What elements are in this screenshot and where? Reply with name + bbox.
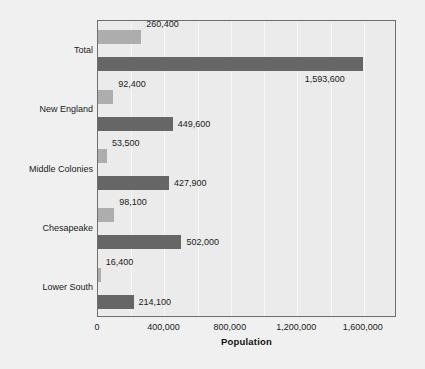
- bar-new-england-1760[interactable]: [98, 117, 173, 131]
- bar-lower-south-1760[interactable]: [98, 295, 134, 309]
- category-label-total: Total: [1, 45, 93, 55]
- bar-value-label: 214,100: [139, 297, 172, 307]
- x-tick-label: 400,000: [147, 322, 180, 333]
- category-label-chesapeake: Chesapeake: [1, 223, 93, 233]
- x-tick-label: 800,000: [214, 322, 247, 333]
- bar-new-england-1700[interactable]: [98, 90, 113, 104]
- y-axis-category-labels: TotalNew EnglandMiddle ColoniesChesapeak…: [0, 20, 93, 317]
- bar-value-label: 98,100: [119, 197, 147, 207]
- chart-figure: TotalNew EnglandMiddle ColoniesChesapeak…: [0, 0, 425, 369]
- bar-lower-south-1700[interactable]: [98, 268, 101, 282]
- bar-middle-colonies-1760[interactable]: [98, 176, 169, 190]
- x-tick-label: 1,200,000: [276, 322, 316, 333]
- category-label-lower-south: Lower South: [1, 282, 93, 292]
- x-axis-title: Population: [97, 336, 396, 347]
- bar-value-label: 1,593,600: [305, 74, 345, 84]
- bar-middle-colonies-1700[interactable]: [98, 149, 107, 163]
- x-tick-label: 1,600,000: [343, 322, 383, 333]
- bar-chesapeake-1760[interactable]: [98, 235, 181, 249]
- bar-value-label: 260,400: [146, 20, 179, 29]
- bar-total-1760[interactable]: [98, 57, 363, 71]
- gridline: [364, 21, 365, 316]
- bar-value-label: 449,600: [178, 119, 211, 129]
- bar-value-label: 427,900: [174, 178, 207, 188]
- bar-value-label: 16,400: [106, 257, 134, 267]
- bar-total-1700[interactable]: [98, 30, 141, 44]
- bar-value-label: 502,000: [186, 237, 219, 247]
- category-label-new-england: New England: [1, 104, 93, 114]
- category-label-middle-colonies: Middle Colonies: [1, 164, 93, 174]
- bar-value-label: 92,400: [118, 79, 146, 89]
- x-tick-label: 0: [94, 322, 99, 333]
- plot-area: 260,4001,593,60092,400449,60053,500427,9…: [97, 20, 396, 317]
- bar-value-label: 53,500: [112, 138, 140, 148]
- bar-chesapeake-1700[interactable]: [98, 208, 114, 222]
- x-axis-tick-labels: 0400,000800,0001,200,0001,600,000: [0, 322, 425, 336]
